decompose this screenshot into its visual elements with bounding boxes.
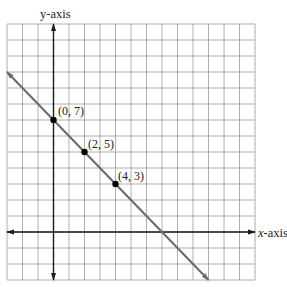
x-axis-label: x-axis (257, 226, 287, 240)
point-label-4-3: (4, 3) (118, 169, 144, 183)
point-label-2-5: (2, 5) (88, 137, 114, 151)
data-point (81, 149, 87, 155)
grid (7, 24, 255, 280)
line-y-equals-minus-x-plus-7 (7, 72, 209, 280)
plotted-line (7, 72, 209, 280)
y-axis-label: y-axis (40, 7, 71, 21)
data-point (50, 117, 56, 123)
point-label-0-7: (0, 7) (58, 104, 84, 118)
x-axis-label-suffix: -axis (264, 226, 287, 240)
coordinate-graph: y-axis x-axis (0, 7) (2, 5) (4, 3) (0, 0, 287, 287)
